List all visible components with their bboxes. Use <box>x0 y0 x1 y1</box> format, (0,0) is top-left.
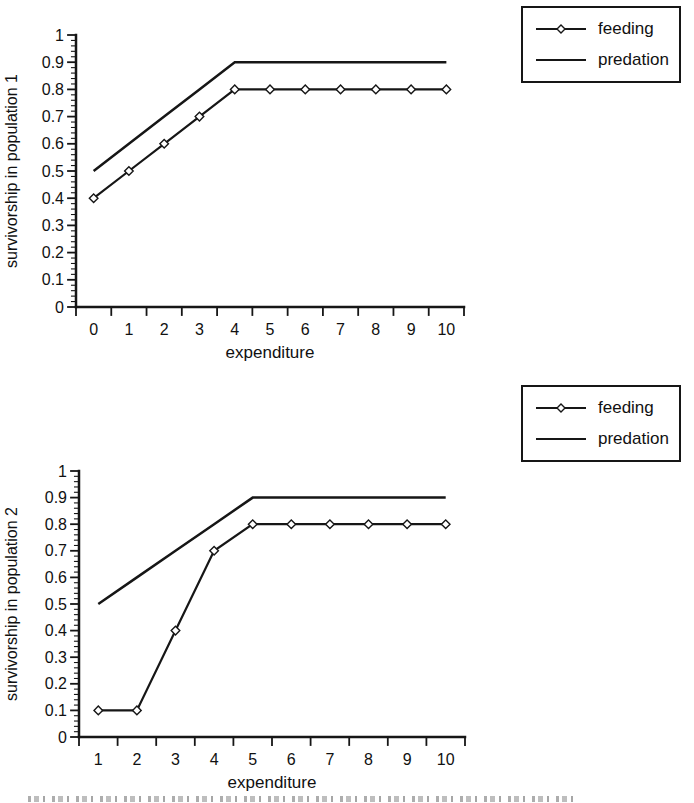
svg-text:expenditure: expenditure <box>226 343 315 362</box>
svg-text:8: 8 <box>371 321 380 338</box>
axes: 00.10.20.30.40.50.60.70.80.9101234567891… <box>3 27 464 363</box>
predation-line-icon <box>536 431 586 447</box>
svg-text:0: 0 <box>89 321 98 338</box>
svg-text:7: 7 <box>336 321 345 338</box>
svg-text:0: 0 <box>55 299 64 316</box>
legend-item-feeding: feeding <box>536 19 675 39</box>
figure-page: 00.10.20.30.40.50.60.70.80.9101234567891… <box>0 0 694 803</box>
population-2-chart: 00.10.20.30.40.50.60.70.80.9112345678910… <box>0 390 500 803</box>
legend-label-feeding: feeding <box>598 398 654 418</box>
svg-text:10: 10 <box>437 321 455 338</box>
svg-text:5: 5 <box>248 751 257 768</box>
svg-text:0.3: 0.3 <box>42 217 64 234</box>
svg-text:0.9: 0.9 <box>42 54 64 71</box>
series-feeding-line <box>94 520 450 715</box>
series-predation-line <box>98 498 445 604</box>
legend-label-feeding: feeding <box>598 19 654 39</box>
svg-text:6: 6 <box>287 751 296 768</box>
svg-text:9: 9 <box>407 321 416 338</box>
svg-text:4: 4 <box>230 321 239 338</box>
svg-text:9: 9 <box>403 751 412 768</box>
svg-text:0.7: 0.7 <box>45 542 67 559</box>
svg-text:0.8: 0.8 <box>42 81 64 98</box>
svg-text:10: 10 <box>437 751 455 768</box>
legend-population-2: feeding predation <box>521 385 681 462</box>
svg-text:0.8: 0.8 <box>45 516 67 533</box>
svg-text:expenditure: expenditure <box>228 773 317 792</box>
legend-label-predation: predation <box>598 429 669 449</box>
svg-text:0.5: 0.5 <box>42 163 64 180</box>
svg-text:3: 3 <box>171 751 180 768</box>
svg-text:0.3: 0.3 <box>45 649 67 666</box>
legend-item-predation: predation <box>536 429 675 449</box>
svg-text:1: 1 <box>58 463 67 480</box>
svg-text:0.1: 0.1 <box>45 702 67 719</box>
svg-text:1: 1 <box>94 751 103 768</box>
series-predation-line <box>94 62 447 171</box>
svg-text:6: 6 <box>301 321 310 338</box>
svg-text:0.7: 0.7 <box>42 108 64 125</box>
predation-line-icon <box>536 52 586 68</box>
svg-text:7: 7 <box>325 751 334 768</box>
scan-artifact <box>28 796 573 802</box>
svg-text:0.4: 0.4 <box>42 190 64 207</box>
svg-text:0.1: 0.1 <box>42 271 64 288</box>
svg-text:0.2: 0.2 <box>42 244 64 261</box>
svg-text:2: 2 <box>160 321 169 338</box>
svg-text:0.6: 0.6 <box>45 569 67 586</box>
svg-text:0.4: 0.4 <box>45 622 67 639</box>
legend-item-predation: predation <box>536 50 675 70</box>
svg-text:survivorship in population 1: survivorship in population 1 <box>3 74 20 268</box>
legend-item-feeding: feeding <box>536 398 675 418</box>
svg-text:3: 3 <box>195 321 204 338</box>
svg-text:8: 8 <box>364 751 373 768</box>
svg-text:0: 0 <box>58 729 67 746</box>
population-1-chart: 00.10.20.30.40.50.60.70.80.9101234567891… <box>0 0 500 365</box>
feeding-line-icon <box>536 21 586 37</box>
svg-text:1: 1 <box>124 321 133 338</box>
svg-text:survivorship in population 2: survivorship in population 2 <box>3 507 20 701</box>
svg-text:0.5: 0.5 <box>45 596 67 613</box>
svg-text:5: 5 <box>266 321 275 338</box>
svg-text:0.6: 0.6 <box>42 135 64 152</box>
series-feeding-line <box>89 85 450 202</box>
legend-label-predation: predation <box>598 50 669 70</box>
legend-population-1: feeding predation <box>521 6 681 83</box>
svg-text:2: 2 <box>132 751 141 768</box>
feeding-line-icon <box>536 400 586 416</box>
svg-text:0.2: 0.2 <box>45 675 67 692</box>
svg-text:0.9: 0.9 <box>45 489 67 506</box>
svg-text:1: 1 <box>55 27 64 44</box>
svg-text:4: 4 <box>210 751 219 768</box>
